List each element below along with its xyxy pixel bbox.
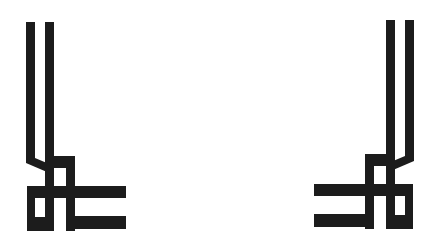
kufic-knot-icon: [16, 0, 126, 243]
knot-glyph-left: Kufic knot glyph (left): [16, 0, 126, 243]
kufic-knot-mirrored-icon: [312, 0, 422, 243]
knot-glyph-right: Kufic knot glyph (right, mirrored): [312, 0, 422, 243]
